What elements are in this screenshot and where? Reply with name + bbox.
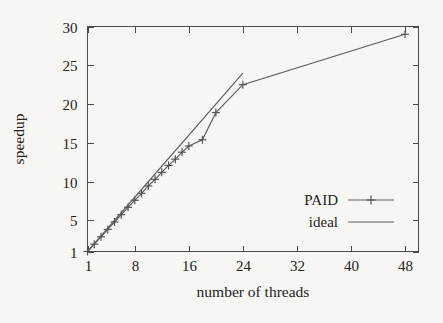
series-ideal <box>88 73 243 251</box>
x-tick-label: 24 <box>236 258 252 274</box>
x-tick-label: 40 <box>344 258 359 274</box>
y-tick-label: 5 <box>70 213 78 229</box>
plot-frame <box>88 27 419 252</box>
data-point-marker <box>401 30 409 38</box>
legend-entry-ideal[interactable]: ideal <box>309 214 394 230</box>
y-tick-label: 10 <box>63 175 78 191</box>
legend-swatch-marker <box>367 196 376 205</box>
chart-figure: 181624324048 151015202530 number of thre… <box>0 0 443 323</box>
speedup-line-chart: 181624324048 151015202530 number of thre… <box>0 0 443 323</box>
y-axis-tick-labels: 151015202530 <box>63 20 78 261</box>
y-tick-label: 15 <box>63 136 78 152</box>
data-point-marker <box>198 136 206 144</box>
x-axis-title: number of threads <box>197 283 310 300</box>
x-axis-tick-labels: 181624324048 <box>85 258 413 274</box>
legend-entry-paid[interactable]: PAID <box>304 192 394 208</box>
series-line <box>88 73 243 251</box>
x-axis-ticks <box>89 27 406 252</box>
y-axis-ticks <box>88 28 419 253</box>
x-tick-label: 32 <box>290 258 305 274</box>
legend-label: ideal <box>309 214 338 230</box>
chart-legend: PAIDideal <box>304 192 394 230</box>
x-tick-label: 16 <box>182 258 198 274</box>
x-tick-label: 1 <box>85 258 93 274</box>
y-tick-label: 25 <box>63 58 78 74</box>
y-tick-label: 20 <box>63 97 78 113</box>
y-tick-label: 30 <box>63 20 78 36</box>
y-tick-label: 1 <box>70 245 78 261</box>
x-tick-label: 8 <box>132 258 140 274</box>
legend-label: PAID <box>304 192 338 208</box>
y-axis-title: speedup <box>10 113 27 164</box>
series-line <box>88 34 405 251</box>
x-tick-label: 48 <box>398 258 413 274</box>
